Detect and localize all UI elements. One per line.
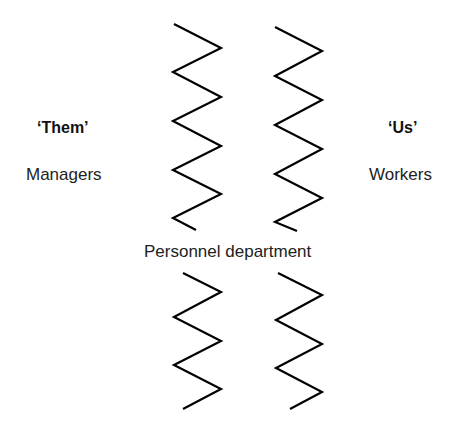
managers-label: Managers bbox=[26, 166, 102, 183]
zigzag-upper-left bbox=[173, 24, 221, 230]
zigzag-lower-right bbox=[276, 273, 322, 409]
personnel-department-label: Personnel department bbox=[144, 243, 311, 260]
them-heading: ‘Them’ bbox=[37, 120, 89, 136]
us-heading: ‘Us’ bbox=[388, 120, 417, 136]
zigzag-lower-left bbox=[174, 273, 221, 409]
zigzag-upper-right bbox=[275, 27, 322, 231]
zigzag-dividers bbox=[0, 0, 466, 433]
workers-label: Workers bbox=[369, 166, 432, 183]
diagram-canvas: ‘Them’ Managers ‘Us’ Workers Personnel d… bbox=[0, 0, 466, 433]
